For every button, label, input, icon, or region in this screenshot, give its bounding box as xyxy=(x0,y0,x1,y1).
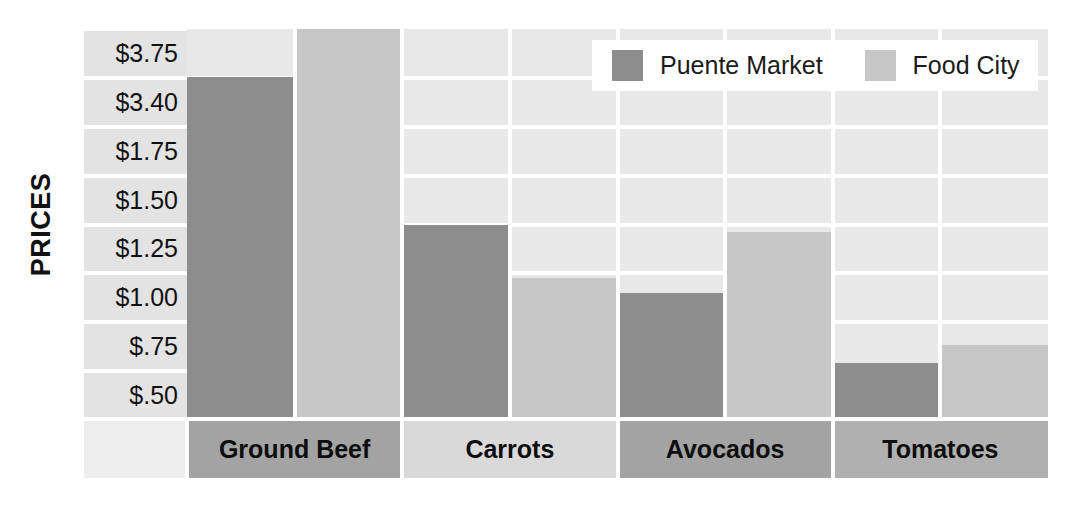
legend-swatch-puente-market xyxy=(612,50,643,81)
legend-label: Food City xyxy=(913,51,1020,80)
x-axis-category-label: Tomatoes xyxy=(882,435,998,464)
bar-tomatoes-puente-market[interactable] xyxy=(833,363,941,420)
x-axis-category-carrots[interactable]: Carrots xyxy=(402,420,617,478)
x-axis-category-ground-beef[interactable]: Ground Beef xyxy=(187,420,402,478)
bar-carrots-puente-market[interactable] xyxy=(402,225,510,420)
legend-label: Puente Market xyxy=(660,51,823,80)
legend-item-1[interactable]: Food City xyxy=(865,50,1020,81)
y-axis-tick-column: $3.75$3.40$1.75$1.50$1.25$1.00$.75$.50 xyxy=(84,29,187,420)
x-axis-corner-cell xyxy=(84,420,187,478)
y-axis-tick-label: $3.40 xyxy=(115,88,178,117)
x-axis-category-tomatoes[interactable]: Tomatoes xyxy=(833,420,1048,478)
bar-chart: PRICES $3.75$3.40$1.75$1.50$1.25$1.00$.7… xyxy=(0,0,1078,515)
y-axis-tick-label: $1.50 xyxy=(115,186,178,215)
y-axis-tick-label: $3.75 xyxy=(115,39,178,68)
x-axis-category-label: Avocados xyxy=(666,435,785,464)
bar-tomatoes-food-city[interactable] xyxy=(940,345,1048,420)
y-axis-tick-0: $3.75 xyxy=(84,31,187,76)
y-axis-tick-label: $1.00 xyxy=(115,283,178,312)
y-axis-title-label: PRICES xyxy=(27,173,58,277)
y-axis-tick-label: $.75 xyxy=(129,332,178,361)
x-axis-category-label: Ground Beef xyxy=(219,435,370,464)
y-axis-tick-7: $.50 xyxy=(84,373,187,418)
y-axis-title: PRICES xyxy=(0,29,84,420)
category-separator-0 xyxy=(185,420,189,478)
y-axis-tick-6: $.75 xyxy=(84,324,187,369)
y-axis-tick-4: $1.25 xyxy=(84,227,187,272)
column-separator-2 xyxy=(400,29,404,420)
category-separator-3 xyxy=(831,420,835,478)
bar-avocados-puente-market[interactable] xyxy=(618,293,726,420)
y-axis-tick-3: $1.50 xyxy=(84,178,187,223)
column-separator-3 xyxy=(508,29,512,420)
y-axis-tick-5: $1.00 xyxy=(84,275,187,320)
category-separator-1 xyxy=(400,420,404,478)
x-axis-category-avocados[interactable]: Avocados xyxy=(618,420,833,478)
legend-swatch-food-city xyxy=(865,50,896,81)
axis-baseline-rule xyxy=(84,417,1048,421)
bar-avocados-food-city[interactable] xyxy=(725,232,833,420)
bar-ground-beef-puente-market[interactable] xyxy=(187,77,295,420)
x-axis-category-label: Carrots xyxy=(465,435,554,464)
bar-ground-beef-food-city[interactable] xyxy=(295,29,403,420)
y-axis-tick-label: $.50 xyxy=(129,381,178,410)
y-axis-tick-2: $1.75 xyxy=(84,129,187,174)
category-separator-2 xyxy=(616,420,620,478)
y-axis-tick-1: $3.40 xyxy=(84,80,187,125)
legend-item-0[interactable]: Puente Market xyxy=(612,50,823,81)
y-axis-tick-label: $1.75 xyxy=(115,137,178,166)
x-axis-category-strip: Ground BeefCarrotsAvocadosTomatoes xyxy=(84,420,1048,478)
column-separator-1 xyxy=(293,29,297,420)
bar-carrots-food-city[interactable] xyxy=(510,278,618,420)
y-axis-tick-label: $1.25 xyxy=(115,234,178,263)
chart-legend: Puente MarketFood City xyxy=(592,40,1038,91)
